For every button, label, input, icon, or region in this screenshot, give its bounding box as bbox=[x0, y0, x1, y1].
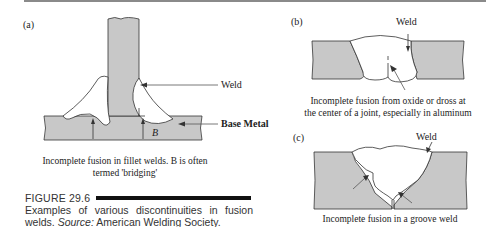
bridging-label-b: B bbox=[152, 127, 158, 138]
figure-caption-source: American Welding Society. bbox=[96, 216, 221, 227]
figure-caption: Examples of various discontinuities in f… bbox=[25, 204, 253, 227]
panel-c-drawing bbox=[314, 142, 467, 209]
figure-number: FIGURE 29.6 bbox=[25, 192, 90, 204]
panel-a-caption-line1: Incomplete fusion in fillet welds. B is … bbox=[30, 155, 220, 167]
weld-callout-b: Weld bbox=[396, 16, 417, 27]
panel-a-label: (a) bbox=[23, 19, 34, 30]
panel-a-drawing bbox=[44, 18, 218, 141]
panel-b-caption: Incomplete fusion from oxide or dross at… bbox=[290, 95, 486, 119]
panel-b-caption-line1: Incomplete fusion from oxide or dross at bbox=[290, 95, 486, 107]
figure-caption-source-label: Source: bbox=[58, 216, 94, 227]
panel-a-caption-line2: termed 'bridging' bbox=[30, 167, 220, 179]
panel-c-caption: Incomplete fusion in a groove weld bbox=[300, 213, 480, 225]
panel-a-caption: Incomplete fusion in fillet welds. B is … bbox=[30, 155, 220, 179]
panel-b-caption-line2: the center of a joint, especially in alu… bbox=[290, 107, 486, 119]
base-metal-callout: Base Metal bbox=[221, 118, 269, 129]
panel-b-label: (b) bbox=[291, 16, 303, 27]
panel-c-label: (c) bbox=[293, 132, 304, 143]
panel-b-drawing bbox=[312, 34, 464, 90]
weld-callout-a: Weld bbox=[221, 79, 242, 90]
weld-callout-c: Weld bbox=[416, 131, 437, 142]
figure-rule bbox=[96, 196, 251, 200]
